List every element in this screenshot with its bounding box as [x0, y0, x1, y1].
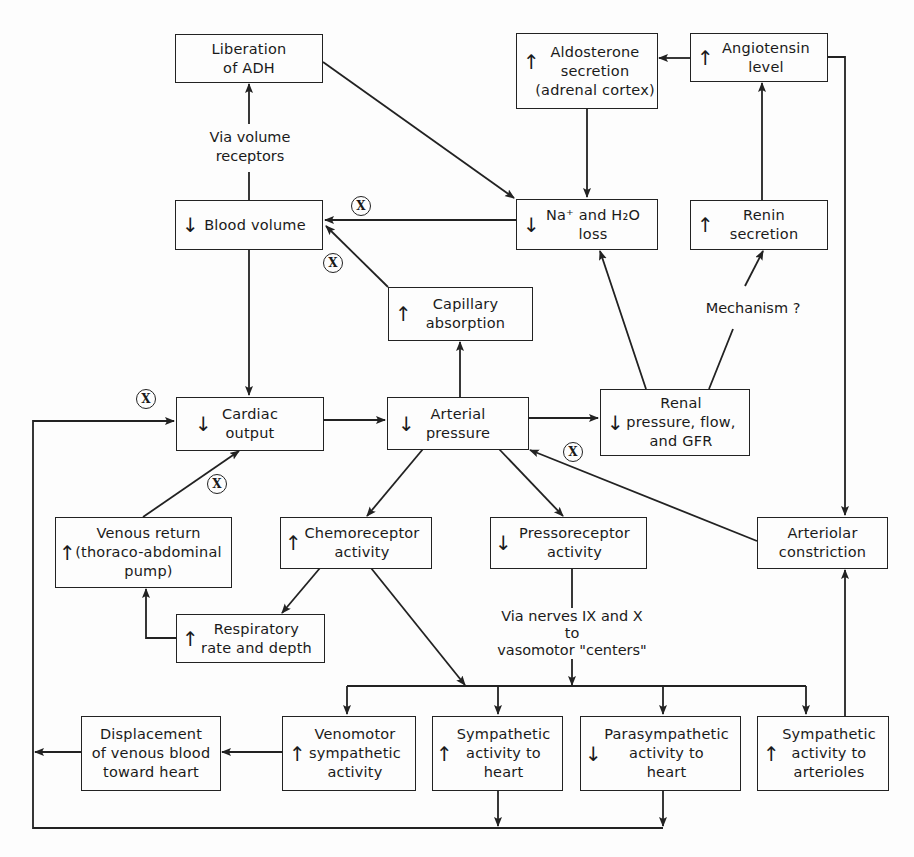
node-label: Na⁺ and H₂O loss: [546, 206, 640, 244]
node-label: Arterial pressure: [426, 405, 490, 443]
node-label: Respiratory rate and depth: [201, 620, 312, 658]
node-label: Angiotensin level: [722, 39, 810, 77]
node-label: Chemoreceptor activity: [304, 524, 419, 562]
up-arrow-icon: ↑: [697, 48, 714, 68]
node-liberation-of-adh: Liberation of ADH: [175, 34, 323, 83]
down-arrow-icon: ↓: [195, 414, 212, 434]
up-arrow-icon: ↑: [59, 543, 76, 563]
node-renal-pressure-flow-gfr: ↓ Renal pressure, flow, and GFR: [600, 389, 750, 456]
down-arrow-icon: ↓: [398, 414, 415, 434]
label-via-nerves: Via nerves IX and X to vasomotor "center…: [487, 608, 657, 659]
node-pressoreceptor-activity: ↓ Pressoreceptor activity: [490, 517, 647, 569]
label-via-volume-receptors: Via volume receptors: [195, 128, 305, 166]
down-arrow-icon: ↓: [495, 533, 512, 553]
node-parasympathetic-heart: ↓ Parasympathetic activity to heart: [580, 716, 741, 791]
node-respiratory-rate-depth: ↑ Respiratory rate and depth: [176, 614, 325, 663]
down-arrow-icon: ↓: [585, 744, 602, 764]
up-arrow-icon: ↑: [436, 744, 453, 764]
x-marker-icon: X: [136, 389, 156, 409]
node-angiotensin-level: ↑ Angiotensin level: [690, 33, 828, 82]
x-marker-icon: X: [323, 253, 343, 273]
up-arrow-icon: ↑: [285, 533, 302, 553]
node-sympathetic-arterioles: ↑ Sympathetic activity to arterioles: [757, 716, 889, 791]
up-arrow-icon: ↑: [395, 304, 412, 324]
x-marker-icon: X: [351, 196, 371, 216]
node-chemoreceptor-activity: ↑ Chemoreceptor activity: [280, 517, 432, 569]
node-label: Venomotor sympathetic activity: [309, 725, 401, 782]
node-arteriolar-constriction: Arteriolar constriction: [757, 517, 888, 569]
node-venous-return: ↑ Venous return (thoraco-abdominal pump): [55, 517, 232, 588]
node-displacement-venous-blood: Displacement of venous blood toward hear…: [81, 716, 221, 791]
node-label: Displacement of venous blood toward hear…: [92, 725, 211, 782]
up-arrow-icon: ↑: [523, 52, 540, 72]
up-arrow-icon: ↑: [763, 744, 780, 764]
node-label: Cardiac output: [222, 405, 278, 443]
node-capillary-absorption: ↑ Capillary absorption: [388, 287, 533, 341]
node-label: Sympathetic activity to arterioles: [782, 725, 876, 782]
node-label: Capillary absorption: [426, 295, 505, 333]
node-blood-volume: ↓ Blood volume: [175, 200, 323, 250]
node-sympathetic-heart: ↑ Sympathetic activity to heart: [432, 716, 563, 791]
node-arterial-pressure: ↓ Arterial pressure: [387, 397, 529, 450]
x-marker-icon: X: [207, 474, 227, 494]
node-aldosterone-secretion: ↑ Aldosterone secretion (adrenal cortex): [516, 33, 658, 109]
node-label: Aldosterone secretion (adrenal cortex): [535, 43, 655, 100]
node-label: Blood volume: [204, 216, 306, 235]
node-label: Liberation of ADH: [212, 40, 287, 78]
node-label: Pressoreceptor activity: [519, 524, 630, 562]
node-label: Renin secretion: [730, 206, 799, 244]
up-arrow-icon: ↑: [289, 744, 306, 764]
node-renin-secretion: ↑ Renin secretion: [690, 200, 828, 250]
up-arrow-icon: ↑: [182, 629, 199, 649]
down-arrow-icon: ↓: [523, 215, 540, 235]
up-arrow-icon: ↑: [697, 215, 714, 235]
node-label: Venous return (thoraco-abdominal pump): [75, 524, 222, 581]
down-arrow-icon: ↓: [182, 215, 199, 235]
node-cardiac-output: ↓ Cardiac output: [176, 397, 324, 451]
node-label: Arteriolar constriction: [779, 524, 866, 562]
x-marker-icon: X: [563, 442, 583, 462]
node-label: Renal pressure, flow, and GFR: [626, 394, 735, 451]
node-venomotor-sympathetic: ↑ Venomotor sympathetic activity: [282, 716, 416, 791]
node-label: Sympathetic activity to heart: [457, 725, 551, 782]
down-arrow-icon: ↓: [607, 413, 624, 433]
node-na-h2o-loss: ↓ Na⁺ and H₂O loss: [516, 199, 658, 250]
node-label: Parasympathetic activity to heart: [604, 725, 729, 782]
label-mechanism: Mechanism ?: [698, 299, 808, 318]
